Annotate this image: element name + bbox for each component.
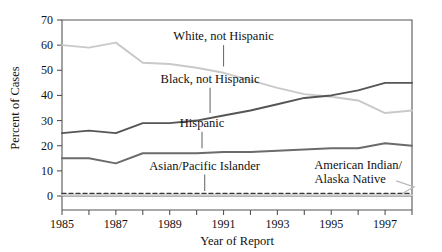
- y-tick-label: 30: [41, 114, 53, 128]
- x-tick-label: 1995: [319, 217, 343, 231]
- y-tick-label: 40: [41, 88, 53, 102]
- x-tick-label: 1991: [212, 217, 236, 231]
- series-annotation-label: Black, not Hispanic: [161, 72, 260, 86]
- y-tick-label: 10: [41, 164, 53, 178]
- y-axis-title: Percent of Cases: [8, 66, 22, 149]
- x-tick-label: 1993: [265, 217, 289, 231]
- x-tick-label: 1989: [158, 217, 182, 231]
- x-tick-label: 1985: [50, 217, 74, 231]
- x-tick-label: 1997: [373, 217, 397, 231]
- y-tick-label: 50: [41, 63, 53, 77]
- chart-root: 010203040506070 198519871989199119931995…: [0, 0, 442, 252]
- line-chart: 010203040506070 198519871989199119931995…: [0, 0, 442, 252]
- x-axis-title: Year of Report: [200, 234, 274, 248]
- y-tick-label: 70: [41, 13, 53, 27]
- series-annotation-label: Alaska Native: [315, 172, 387, 186]
- x-tick-label: 1987: [104, 217, 128, 231]
- series-annotation-label: White, not Hispanic: [173, 29, 274, 43]
- series-annotation-label: Asian/Pacific Islander: [149, 159, 261, 173]
- y-tick-label: 0: [47, 189, 53, 203]
- y-tick-label: 60: [41, 38, 53, 52]
- y-tick-label: 20: [41, 139, 53, 153]
- series-annotation-label: Hispanic: [180, 116, 225, 130]
- series-annotation-label: American Indian/: [314, 158, 402, 172]
